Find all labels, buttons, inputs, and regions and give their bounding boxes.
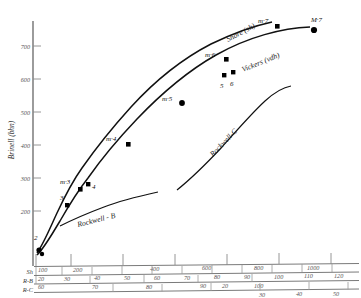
data-point-5 bbox=[222, 73, 226, 77]
data-point-M7 bbox=[311, 27, 317, 33]
x2-label-120: 120 bbox=[334, 272, 344, 279]
x2-label-40: 40 bbox=[94, 274, 101, 281]
x4-row-label: R-C bbox=[22, 286, 34, 293]
y-tick-label-700: 700 bbox=[21, 43, 31, 50]
curve-labels-group: Shore (sh) Vickers (vdh) Rockwell - B Ro… bbox=[75, 21, 281, 229]
y-tick-label-300: 300 bbox=[20, 175, 31, 182]
x1-label-400: 400 bbox=[150, 265, 160, 272]
point-label-m3: m·3 bbox=[60, 178, 71, 186]
point-label-m7: m·7 bbox=[258, 17, 269, 25]
data-point-6 bbox=[231, 70, 235, 74]
point-label-6: 6 bbox=[230, 80, 234, 88]
x1-label-800: 800 bbox=[254, 264, 264, 271]
point-label-M7: M·7 bbox=[310, 16, 323, 24]
y-tick-label-200: 200 bbox=[21, 208, 31, 215]
point-label-m5: m·5 bbox=[162, 95, 173, 103]
x4-label-20: 20 bbox=[222, 282, 229, 289]
data-point-2 bbox=[36, 247, 41, 252]
x-axes-group: 100 200 400 600 800 1000 Sh 20 30 40 5 bbox=[22, 253, 359, 298]
shore-curve-label: Shore (sh) bbox=[225, 21, 257, 44]
point-label-2: 2 bbox=[34, 234, 38, 242]
x2-label-20: 20 bbox=[38, 275, 45, 282]
x4-label-30: 30 bbox=[258, 291, 266, 298]
x3-label-70: 70 bbox=[92, 283, 99, 290]
x2-label-30: 30 bbox=[63, 275, 71, 282]
data-point-4 bbox=[86, 182, 90, 186]
x1-label-1000: 1000 bbox=[307, 264, 320, 271]
x3-label-60: 60 bbox=[38, 283, 45, 290]
point-label-m4: m·4 bbox=[106, 135, 117, 143]
x3-label-80: 80 bbox=[146, 283, 153, 290]
shore-curve bbox=[37, 22, 272, 253]
x-axis-row-vickers-brinell: 100 200 400 600 800 1000 bbox=[34, 253, 359, 273]
x1-label-600: 600 bbox=[202, 264, 212, 271]
x1-label-200: 200 bbox=[73, 266, 83, 273]
data-point-m7 bbox=[275, 24, 280, 29]
x4-label-40: 40 bbox=[296, 290, 303, 297]
point-labels-group: 2 3 4 5 6 m·3 m·4 m·5 m·6 m·7 M·7 bbox=[34, 16, 323, 242]
data-point-m6 bbox=[224, 57, 229, 62]
point-label-m6: m·6 bbox=[205, 51, 216, 59]
data-point-m4 bbox=[126, 142, 131, 147]
data-point-origin bbox=[40, 252, 44, 256]
x2-label-50: 50 bbox=[124, 274, 131, 281]
x3-label-90: 90 bbox=[200, 282, 207, 289]
point-label-3: 3 bbox=[59, 194, 64, 202]
x2-row-label: Sh bbox=[27, 268, 33, 275]
rockwell-c-curve-label: Rockwell-C bbox=[207, 126, 239, 159]
y-tick-label-600: 600 bbox=[21, 76, 31, 83]
x3-label-100: 100 bbox=[254, 282, 264, 289]
data-point-m3 bbox=[78, 187, 83, 192]
vickers-curve-label: Vickers (vdh) bbox=[240, 50, 281, 74]
x3-row-label: R-B bbox=[22, 277, 33, 284]
x2-label-70: 70 bbox=[184, 274, 191, 281]
x2-label-60: 60 bbox=[154, 274, 161, 281]
x4-label-50: 50 bbox=[333, 290, 340, 297]
x2-label-100: 100 bbox=[274, 273, 284, 280]
x2-label-80: 80 bbox=[214, 273, 221, 280]
x2-label-110: 110 bbox=[304, 272, 314, 279]
rockwell-b-curve-label: Rockwell - B bbox=[75, 211, 116, 229]
hardness-conversion-chart: 700 600 500 400 300 200 Brinell (bhn) 10… bbox=[0, 0, 361, 298]
y-tick-label-400: 400 bbox=[21, 142, 31, 149]
x2-label-90: 90 bbox=[244, 273, 251, 280]
point-label-5: 5 bbox=[220, 82, 224, 90]
y-axis-title: Brinell (bhn) bbox=[7, 120, 16, 159]
x1-label-100: 100 bbox=[38, 266, 48, 273]
y-tick-label-500: 500 bbox=[21, 109, 31, 116]
x-axis-line-3 bbox=[34, 281, 359, 285]
x-axis-row-rockwell-c: R-C 20 30 40 50 bbox=[22, 282, 359, 298]
y-axis: 700 600 500 400 300 200 Brinell (bhn) bbox=[7, 21, 41, 266]
x-axis-line-4 bbox=[34, 289, 359, 293]
point-label-4: 4 bbox=[92, 183, 96, 191]
data-point-m5 bbox=[179, 100, 185, 106]
data-point-3 bbox=[65, 203, 69, 207]
